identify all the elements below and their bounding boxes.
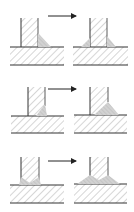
row-2 [11,87,127,133]
row-2-before-joint [11,87,64,133]
row-3-after-joint [74,157,127,203]
weld-diagram [0,0,134,212]
row-3 [10,157,127,203]
weld-fillet-right [107,36,116,47]
weld-fillet-left [81,38,90,47]
row-1-after-joint [73,18,128,65]
weld-fillet [38,33,51,47]
row-3-before-joint [10,157,64,203]
row-2-after-joint [74,87,127,133]
row-1-before-joint [10,18,64,65]
row-1 [10,16,128,65]
